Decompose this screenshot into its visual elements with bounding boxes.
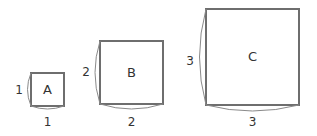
square-c-bottom-label: 3	[249, 115, 257, 129]
squares-diagram: A 1 1 B 2 2 C 3 3	[0, 0, 317, 136]
square-a: A 1 1	[15, 73, 64, 129]
square-c-side-label: 3	[186, 54, 194, 68]
square-a-label: A	[43, 82, 52, 97]
square-b-bottom-label: 2	[128, 115, 136, 129]
square-c: C 3 3	[186, 9, 299, 129]
square-a-bottom-label: 1	[44, 115, 52, 129]
square-b: B 2 2	[82, 41, 163, 129]
square-c-label: C	[248, 49, 257, 64]
square-a-side-label: 1	[15, 83, 23, 97]
square-b-side-label: 2	[82, 65, 90, 79]
square-b-label: B	[127, 65, 136, 80]
